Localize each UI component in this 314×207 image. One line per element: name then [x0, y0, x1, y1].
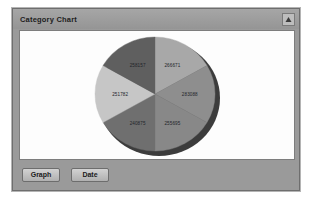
chart-canvas: 266671283088255695240875251782258157: [19, 30, 295, 160]
category-chart-panel: Category Chart 2666712830882556952408752…: [12, 8, 300, 191]
pie-slice-label: 255695: [164, 120, 180, 125]
pie-slice-label: 258157: [130, 63, 146, 68]
panel-titlebar: Category Chart: [13, 9, 299, 29]
panel-title: Category Chart: [20, 15, 77, 24]
pie-slice-label: 266671: [164, 63, 180, 68]
collapse-up-arrow-icon[interactable]: [282, 13, 295, 26]
panel-button-bar: Graph Date: [13, 159, 299, 190]
pie-slice-label: 240875: [130, 120, 146, 125]
pie-chart-svg: [91, 32, 223, 158]
pie-slice-label: 251782: [112, 92, 128, 97]
pie-slice-label: 283088: [182, 92, 198, 97]
pie-chart: 266671283088255695240875251782258157: [91, 32, 223, 158]
graph-button[interactable]: Graph: [22, 168, 60, 182]
date-button[interactable]: Date: [71, 168, 109, 182]
